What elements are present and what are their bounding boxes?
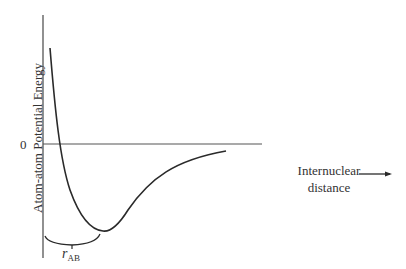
bond-length-subscript: AB xyxy=(67,253,80,263)
x-axis-label: Internuclear distance xyxy=(284,162,374,196)
bond-length-label: rAB xyxy=(62,246,80,263)
x-axis-label-line2: distance xyxy=(284,179,374,196)
bond-length-bracket xyxy=(45,234,100,245)
x-axis-label-line1: Internuclear xyxy=(284,162,374,179)
zero-label: 0 xyxy=(20,137,27,153)
y-axis-label: Atom-atom Potential Energy xyxy=(30,38,46,238)
potential-curve xyxy=(50,48,226,231)
potential-energy-diagram xyxy=(0,0,406,269)
